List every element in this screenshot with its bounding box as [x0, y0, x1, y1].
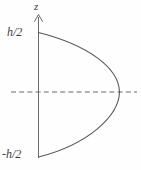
top-tick-label-h-half: h/2 — [7, 26, 22, 38]
z-axis-label: z — [34, 1, 38, 12]
bottom-tick-label-neg-h-half: -h/2 — [2, 148, 21, 160]
parabolic-profile-figure: z h/2 -h/2 — [0, 0, 141, 170]
parabolic-profile-curve — [39, 33, 120, 158]
